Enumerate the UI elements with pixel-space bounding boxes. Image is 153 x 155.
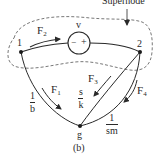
- node-g-dot: [78, 124, 82, 128]
- flow-label-f2: F2: [37, 25, 47, 38]
- flow-label-f1: F1: [51, 84, 61, 97]
- node-2-label: 2: [137, 39, 142, 49]
- flow-label-f3: F3: [88, 73, 98, 86]
- node-2-dot: [138, 50, 142, 54]
- source-minus: −: [71, 38, 76, 47]
- node-1-dot: [19, 50, 23, 54]
- figure-caption: (b): [73, 143, 85, 153]
- source-plus: +: [81, 37, 87, 47]
- flow-label-f4: F4: [137, 85, 147, 98]
- node-1-label: 1: [17, 38, 22, 48]
- node-g-label: g: [77, 130, 82, 140]
- edge-label-1-over-b: 1 b: [29, 91, 36, 114]
- edge-label-1-over-sm: 1 sm: [106, 113, 118, 136]
- wire-source-to-node2: [90, 43, 140, 52]
- mechanical-circuit-diagram: Supernode 1 2 g v − + F2 F1 F3 F4 1 b s …: [0, 0, 153, 155]
- flow-arrow-f4: [124, 80, 137, 102]
- wire-node1-to-source: [21, 43, 68, 52]
- supernode-label: Supernode: [102, 0, 145, 6]
- source-label: v: [76, 20, 81, 30]
- edge-label-s-over-k: s k: [78, 87, 84, 110]
